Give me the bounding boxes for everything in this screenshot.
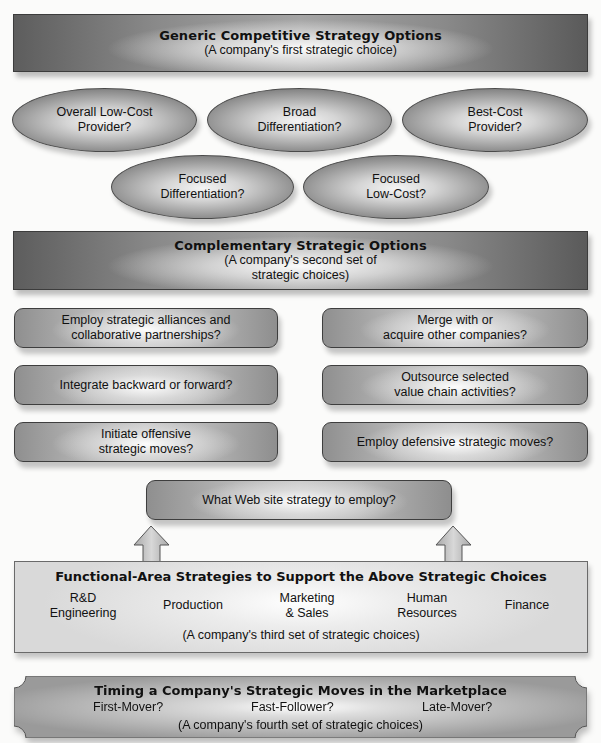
arrow-up-icon (132, 525, 172, 563)
option-focused-differentiation: Focused Differentiation? (111, 155, 294, 219)
arrow-up-icon (434, 525, 474, 563)
option-label-line1: Overall Low-Cost (57, 105, 153, 120)
option-label-line2: value chain activities? (394, 385, 516, 400)
option-label-line1: Broad (283, 105, 316, 120)
area-label-line1: R&D (33, 591, 133, 606)
option-label-line2: collaborative partnerships? (71, 328, 220, 343)
option-label-line2: acquire other companies? (383, 328, 527, 343)
option-broad-differentiation: Broad Differentiation? (207, 88, 392, 152)
area-label-line1: Marketing (257, 591, 357, 606)
option-label-line2: Differentiation? (161, 187, 245, 202)
area-finance: Finance (477, 598, 577, 613)
timing-option-late-mover: Late-Mover? (422, 700, 492, 714)
generic-strategy-subtitle: (A company's first strategic choice) (204, 43, 397, 58)
functional-area-title: Functional-Area Strategies to Support th… (15, 569, 587, 584)
complementary-subtitle-line2: strategic choices) (252, 268, 349, 283)
option-label-line2: Low-Cost? (366, 187, 426, 202)
option-focused-low-cost: Focused Low-Cost? (303, 155, 489, 219)
timing-option-first-mover: First-Mover? (93, 700, 163, 714)
option-label-line1: Employ defensive strategic moves? (357, 435, 554, 450)
option-label-line2: Provider? (78, 120, 132, 135)
functional-area-subtitle: (A company's third set of strategic choi… (15, 628, 587, 642)
option-defensive-moves: Employ defensive strategic moves? (322, 422, 588, 462)
area-label-line2: Engineering (33, 606, 133, 621)
option-label-line2: Provider? (468, 120, 522, 135)
area-label-line1: Finance (477, 598, 577, 613)
generic-strategy-title: Generic Competitive Strategy Options (159, 28, 442, 43)
option-label-line1: Merge with or (417, 313, 493, 328)
option-best-cost: Best-Cost Provider? (402, 88, 588, 152)
option-strategic-alliances: Employ strategic alliances and collabora… (14, 308, 278, 348)
complementary-subtitle-line1: (A company's second set of (224, 253, 376, 268)
option-label-line2: strategic moves? (99, 442, 193, 457)
option-outsource: Outsource selected value chain activitie… (322, 365, 588, 405)
option-offensive-moves: Initiate offensive strategic moves? (14, 422, 278, 462)
option-label-line2: Differentiation? (258, 120, 342, 135)
functional-area-box: Functional-Area Strategies to Support th… (14, 561, 588, 653)
complementary-strategy-title: Complementary Strategic Options (174, 238, 426, 253)
area-production: Production (143, 598, 243, 613)
option-label-line1: Focused (372, 172, 420, 187)
area-label-line2: Resources (377, 606, 477, 621)
website-strategy-box: What Web site strategy to employ? (146, 480, 452, 520)
area-label-line1: Production (143, 598, 243, 613)
timing-banner: Timing a Company's Strategic Moves in th… (14, 676, 587, 738)
area-rd-engineering: R&D Engineering (33, 591, 133, 621)
area-marketing-sales: Marketing & Sales (257, 591, 357, 621)
option-label-line1: Best-Cost (468, 105, 523, 120)
option-label-line1: Outsource selected (401, 370, 509, 385)
generic-strategy-banner: Generic Competitive Strategy Options (A … (13, 14, 588, 72)
option-overall-low-cost: Overall Low-Cost Provider? (12, 88, 197, 152)
timing-option-fast-follower: Fast-Follower? (251, 700, 334, 714)
option-merge-acquire: Merge with or acquire other companies? (322, 308, 588, 348)
timing-subtitle: (A company's fourth set of strategic cho… (14, 718, 587, 732)
complementary-strategy-banner: Complementary Strategic Options (A compa… (13, 231, 588, 290)
option-label-line1: Initiate offensive (101, 427, 191, 442)
area-label-line1: Human (377, 591, 477, 606)
option-label-line1: Integrate backward or forward? (59, 378, 232, 393)
option-integrate: Integrate backward or forward? (14, 365, 278, 405)
option-label-line1: Focused (179, 172, 227, 187)
area-label-line2: & Sales (257, 606, 357, 621)
timing-title: Timing a Company's Strategic Moves in th… (14, 683, 587, 698)
website-strategy-label: What Web site strategy to employ? (202, 493, 396, 508)
area-human-resources: Human Resources (377, 591, 477, 621)
option-label-line1: Employ strategic alliances and (62, 313, 231, 328)
